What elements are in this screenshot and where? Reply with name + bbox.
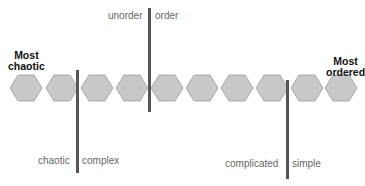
complicated-label: complicated [225, 158, 278, 169]
hexagon-4 [116, 75, 148, 101]
hexagon-8 [256, 75, 288, 101]
divider-unorder-order [148, 8, 151, 112]
most-chaotic-line2: chaotic [8, 61, 45, 72]
hexagon-6 [186, 75, 218, 101]
hexagon-10 [325, 75, 357, 101]
simple-label: simple [292, 158, 321, 169]
most-ordered-line2: ordered [326, 67, 365, 78]
order-label: order [155, 10, 178, 21]
unorder-label: unorder [108, 10, 142, 21]
hexagon-2 [46, 75, 78, 101]
divider-complicated-simple [286, 80, 289, 179]
hexagon-5 [151, 75, 183, 101]
most-ordered-label: Most ordered [326, 56, 365, 78]
divider-chaotic-complex [76, 70, 79, 173]
hexagon-9 [291, 75, 323, 101]
hexagon-row [10, 75, 357, 101]
complex-label: complex [82, 155, 119, 166]
hexagon-1 [10, 75, 42, 101]
hexagon-3 [81, 75, 113, 101]
chaotic-label: chaotic [38, 155, 70, 166]
hexagon-7 [221, 75, 253, 101]
most-chaotic-label: Most chaotic [8, 50, 45, 72]
